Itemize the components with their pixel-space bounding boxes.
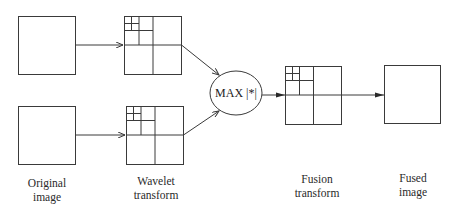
original-image-bottom	[19, 107, 76, 165]
original-image-top	[19, 17, 76, 75]
wavelet-transform-bottom	[127, 107, 184, 165]
caption-fused-image: Fused image	[373, 171, 453, 199]
caption-original-line1: Original	[7, 176, 87, 190]
caption-fusion-transform: Fusion transform	[277, 172, 357, 200]
caption-original-line2: image	[7, 190, 87, 204]
max-operator-label: MAX |*|	[215, 86, 257, 100]
caption-wavelet-line1: Wavelet	[116, 174, 196, 188]
fusion-transform	[286, 67, 342, 125]
caption-fusion-line2: transform	[277, 186, 357, 200]
caption-fused-line1: Fused	[373, 171, 453, 185]
fused-image	[385, 66, 441, 124]
caption-fusion-line1: Fusion	[277, 172, 357, 186]
caption-wavelet-transform: Wavelet transform	[116, 174, 196, 202]
caption-fused-line2: image	[373, 185, 453, 199]
caption-wavelet-line2: transform	[116, 188, 196, 202]
arrow-wavelet-bottom-to-max	[184, 111, 220, 135]
wavelet-transform-top	[125, 17, 182, 75]
arrow-wavelet-top-to-max	[182, 45, 220, 75]
caption-original-image: Original image	[7, 176, 87, 204]
